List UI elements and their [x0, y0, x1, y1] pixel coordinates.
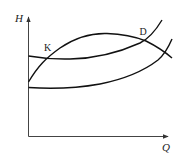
y-axis-label: H [14, 12, 24, 24]
hq-diagram: H Q K D [0, 0, 183, 157]
point-k-label: K [44, 42, 52, 53]
arch-curve [29, 33, 173, 82]
point-d-label: D [140, 26, 147, 37]
x-axis-label: Q [162, 141, 170, 153]
